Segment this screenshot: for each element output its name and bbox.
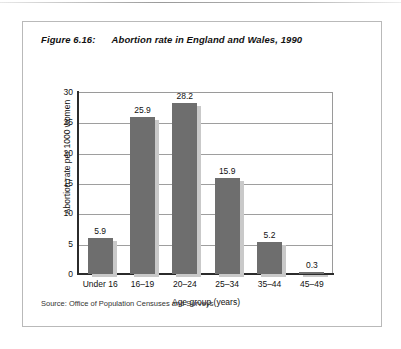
bar-shadow (303, 275, 328, 277)
bar-value-label: 15.9 (206, 166, 249, 176)
bar (299, 272, 324, 274)
y-tick-label: 15 (27, 178, 73, 188)
bar (215, 178, 240, 274)
x-tick-label: Under 16 (79, 279, 121, 289)
bar-group: 15.9 (215, 92, 240, 274)
bar-group: 5.9 (88, 92, 113, 274)
figure-title: Figure 6.16:Abortion rate in England and… (41, 34, 302, 45)
bar-value-label: 25.9 (121, 105, 164, 115)
x-tick-label: 20–24 (164, 279, 206, 289)
bar-value-label: 28.2 (163, 91, 206, 101)
bar-series: 5.925.928.215.95.20.3 (79, 92, 333, 274)
bar-value-label: 5.2 (248, 230, 291, 240)
figure-title-text: Abortion rate in England and Wales, 1990 (112, 34, 303, 45)
y-tick-label: 5 (27, 239, 73, 249)
x-axis-tick-labels: Under 1616–1920–2425–3435–4445–49 (79, 279, 333, 293)
y-tick-label: 10 (27, 208, 73, 218)
bar-group: 25.9 (130, 92, 155, 274)
y-tick-label: 20 (27, 148, 73, 158)
y-axis-tick-labels: 051015202530 (23, 56, 73, 288)
bar-group: 5.2 (257, 92, 282, 274)
page-scan-line (0, 2, 401, 3)
chart-plot-region: Abortion rate per 1000 women 05101520253… (23, 56, 383, 288)
x-tick-label: 45–49 (291, 279, 333, 289)
bar (257, 242, 282, 274)
figure-container: Figure 6.16:Abortion rate in England and… (22, 21, 382, 327)
bar-group: 28.2 (172, 92, 197, 274)
x-tick-label: 16–19 (121, 279, 163, 289)
x-tick-label: 35–44 (248, 279, 290, 289)
figure-number-label: Figure 6.16: (41, 34, 96, 45)
bar (130, 117, 155, 274)
bar (88, 238, 113, 274)
bar (172, 103, 197, 274)
x-tick-label: 25–34 (206, 279, 248, 289)
bar-group: 0.3 (299, 92, 324, 274)
bar-value-label: 0.3 (290, 260, 333, 270)
source-note: Source: Office of Population Censuses an… (41, 299, 213, 308)
y-tick-label: 0 (27, 269, 73, 279)
y-tick-label: 30 (27, 87, 73, 97)
bar-value-label: 5.9 (79, 226, 122, 236)
y-tick-label: 25 (27, 117, 73, 127)
